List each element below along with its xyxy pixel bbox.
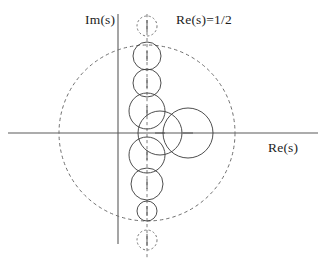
complex-plane-figure: Im(s) Re(s) Re(s)=1/2 — [0, 0, 326, 265]
figure-canvas: Im(s) Re(s) Re(s)=1/2 — [0, 0, 326, 265]
imaginary-axis-label: Im(s) — [85, 12, 115, 27]
critical-line-label: Re(s)=1/2 — [176, 12, 232, 27]
real-axis-label: Re(s) — [268, 140, 298, 155]
